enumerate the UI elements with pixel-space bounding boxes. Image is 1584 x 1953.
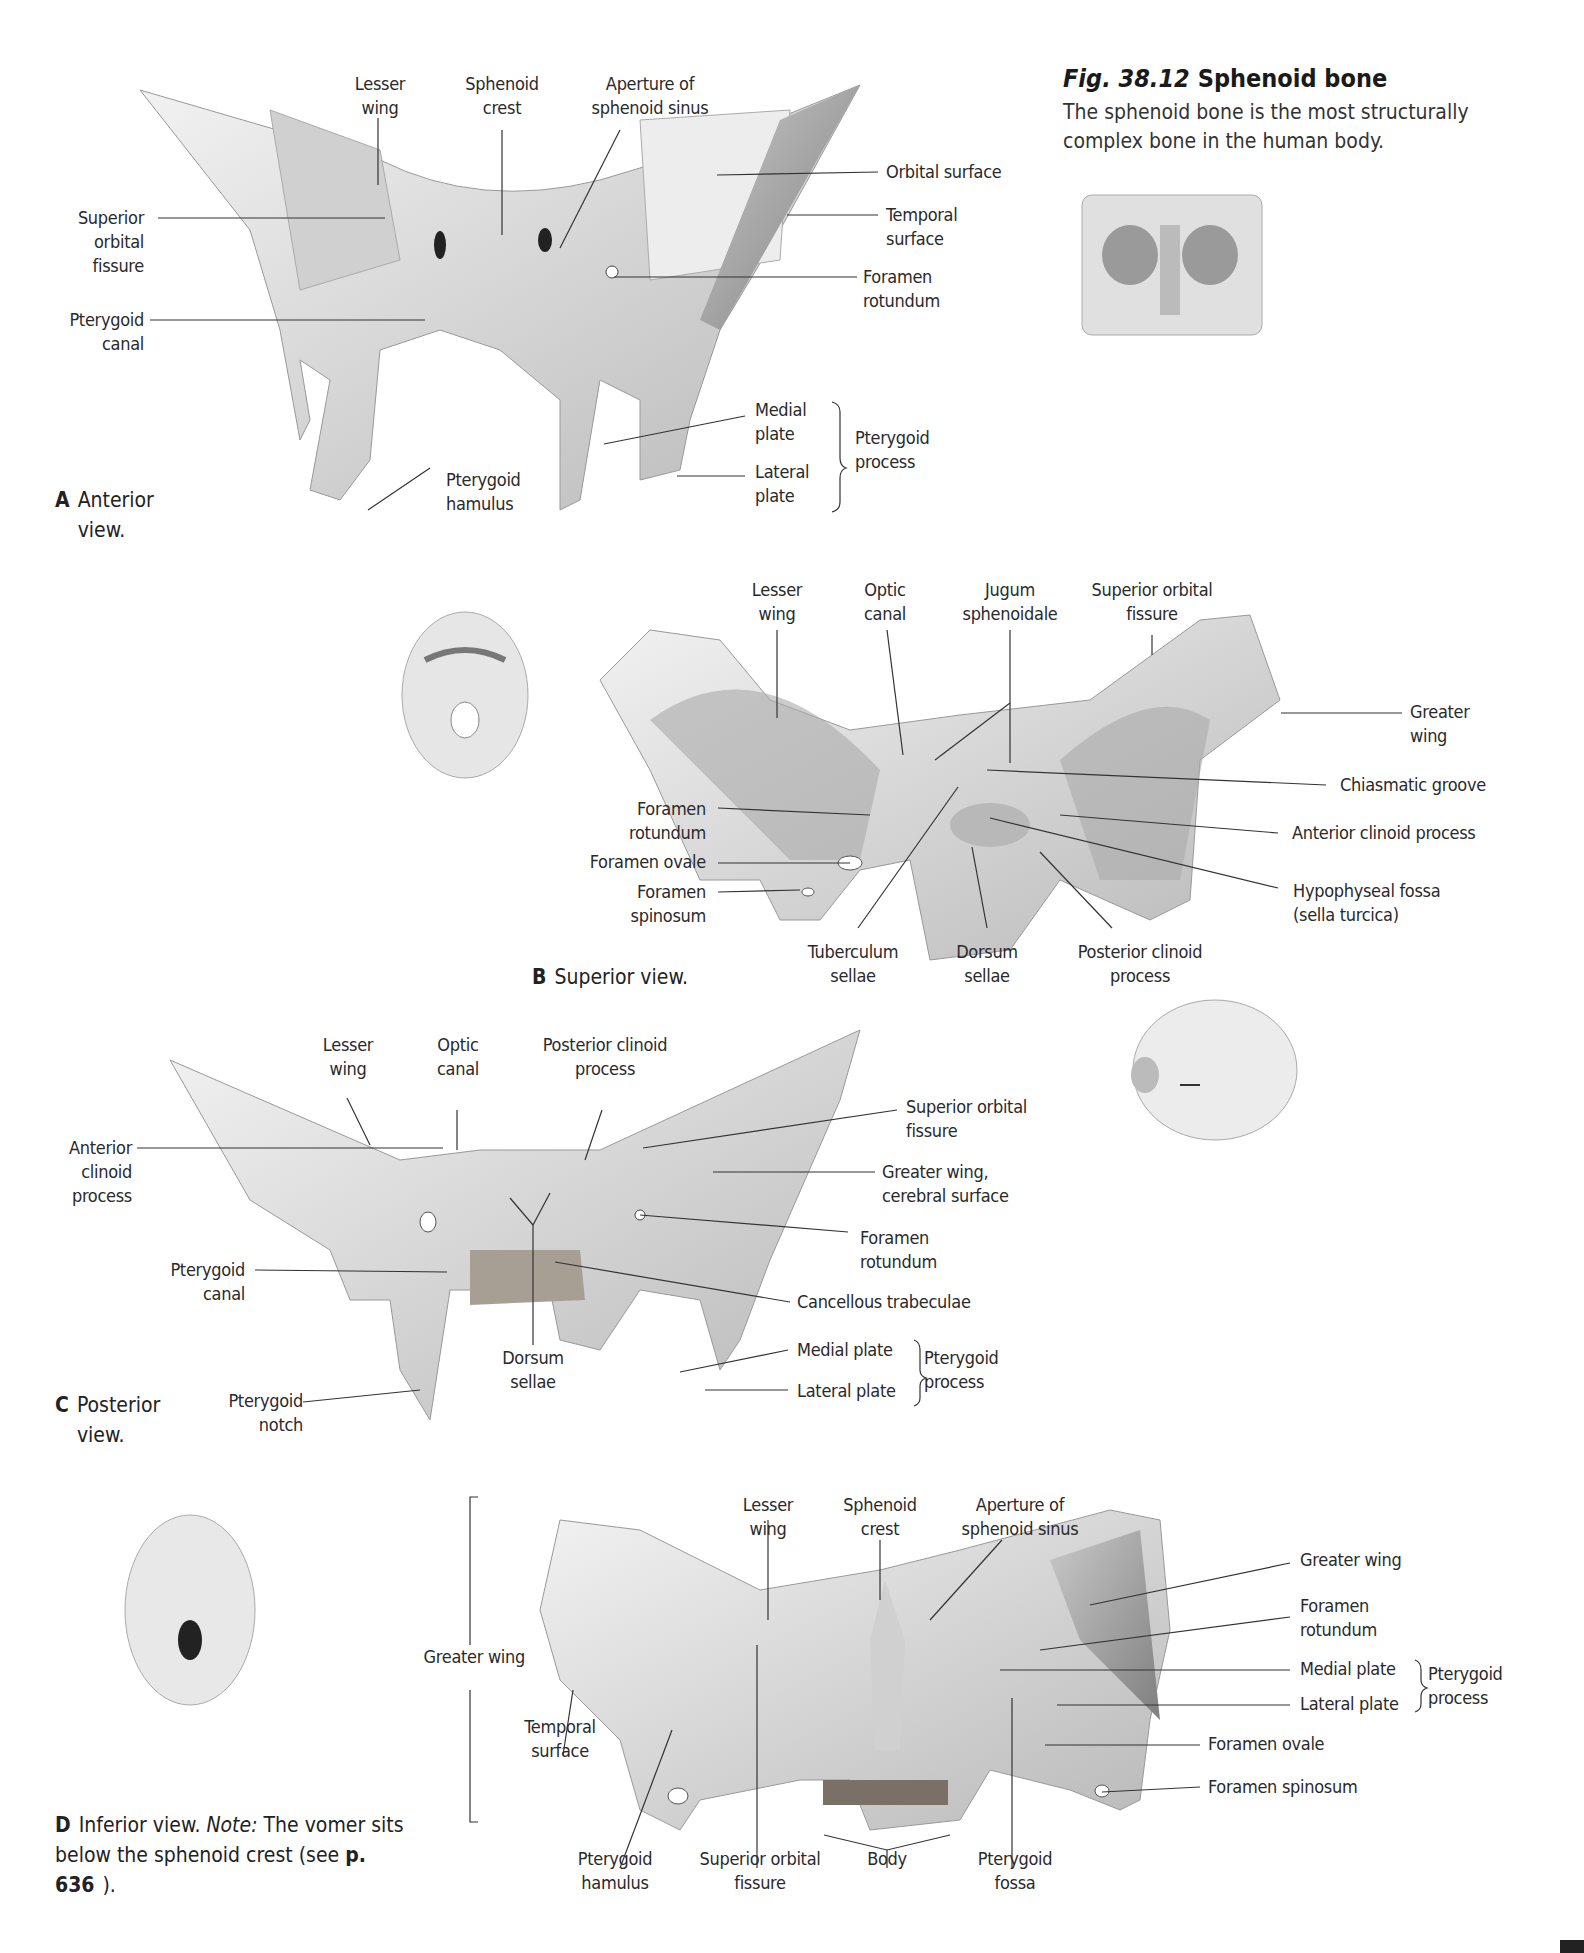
panel-d-letter: D (55, 1813, 71, 1837)
label-a-pterygoid-hamulus: Pterygoid hamulus (446, 468, 521, 516)
thumbnail-skull-lateral (1131, 1000, 1297, 1140)
label-a-orbital-surface: Orbital surface (886, 160, 1001, 184)
label-a-sphenoid-crest: Sphenoid crest (452, 72, 552, 120)
page-number-fragment (1560, 1940, 1584, 1953)
thumbnail-coronal-section (1082, 195, 1262, 335)
panel-a-caption: AAnterior view. (55, 485, 154, 545)
label-a-aperture-sphenoid-sinus: Aperture of sphenoid sinus (575, 72, 725, 120)
label-c-greater-wing-cerebral-surface: Greater wing, cerebral surface (882, 1160, 1009, 1208)
label-a-lateral-plate: Lateral plate (755, 460, 809, 508)
label-c-optic-canal: Optic canal (418, 1033, 498, 1081)
label-a-temporal-surface: Temporal surface (886, 203, 957, 251)
label-b-greater-wing: Greater wing (1410, 700, 1470, 748)
panel-d-caption-suffix: ). (102, 1873, 115, 1897)
label-c-posterior-clinoid-process: Posterior clinoid process (525, 1033, 685, 1081)
label-d-pterygoid-process: Pterygoid process (1428, 1662, 1503, 1710)
label-b-anterior-clinoid-process: Anterior clinoid process (1292, 821, 1476, 845)
panel-c-letter: C (55, 1393, 69, 1417)
label-c-lesser-wing: Lesser wing (308, 1033, 388, 1081)
panel-d-caption-prefix: Inferior view. (79, 1813, 207, 1837)
label-d-pterygoid-fossa: Pterygoid fossa (965, 1847, 1065, 1895)
label-d-greater-wing-left: Greater wing (380, 1645, 525, 1669)
label-d-foramen-spinosum: Foramen spinosum (1208, 1775, 1357, 1799)
label-d-foramen-rotundum: Foramen rotundum (1300, 1594, 1377, 1642)
label-b-jugum-sphenoidale: Jugum sphenoidale (945, 578, 1075, 626)
label-c-foramen-rotundum: Foramen rotundum (860, 1226, 937, 1274)
label-c-anterior-clinoid-process: Anterior clinoid process (40, 1136, 132, 1208)
label-b-posterior-clinoid-process: Posterior clinoid process (1060, 940, 1220, 988)
label-d-sphenoid-crest: Sphenoid crest (830, 1493, 930, 1541)
panel-a-bone-illustration (140, 85, 860, 510)
panel-c-caption-text: Posterior view. (77, 1390, 160, 1450)
label-a-lesser-wing: Lesser wing (340, 72, 420, 120)
label-b-hypophyseal-fossa: Hypophyseal fossa (sella turcica) (1293, 879, 1440, 927)
panel-b-letter: B (532, 965, 546, 989)
label-c-pterygoid-canal: Pterygoid canal (140, 1258, 245, 1306)
label-d-foramen-ovale: Foramen ovale (1208, 1732, 1324, 1756)
label-d-aperture-sphenoid-sinus: Aperture of sphenoid sinus (945, 1493, 1095, 1541)
panel-b-caption: BSuperior view. (532, 962, 688, 992)
label-b-lesser-wing: Lesser wing (737, 578, 817, 626)
label-d-pterygoid-hamulus: Pterygoid hamulus (565, 1847, 665, 1895)
label-d-medial-plate: Medial plate (1300, 1657, 1396, 1681)
label-a-medial-plate: Medial plate (755, 398, 806, 446)
label-b-optic-canal: Optic canal (845, 578, 925, 626)
label-c-cancellous-trabeculae: Cancellous trabeculae (797, 1290, 971, 1314)
label-d-greater-wing-right: Greater wing (1300, 1548, 1402, 1572)
panel-b-caption-text: Superior view. (554, 965, 688, 989)
label-a-pterygoid-process: Pterygoid process (855, 426, 930, 474)
thumbnail-skull-inferior (125, 1515, 255, 1705)
panel-a-letter: A (55, 488, 70, 512)
panel-d-caption-note: Note: (206, 1813, 257, 1837)
label-d-body: Body (857, 1847, 917, 1871)
label-c-dorsum-sellae: Dorsum sellae (483, 1346, 583, 1394)
label-d-lateral-plate: Lateral plate (1300, 1692, 1399, 1716)
label-b-foramen-spinosum: Foramen spinosum (580, 880, 706, 928)
label-d-lesser-wing: Lesser wing (728, 1493, 808, 1541)
label-d-temporal-surface: Temporal surface (510, 1715, 610, 1763)
label-b-chiasmatic-groove: Chiasmatic groove (1340, 773, 1486, 797)
label-b-foramen-rotundum: Foramen rotundum (580, 797, 706, 845)
thumbnail-skull-base-superior (402, 612, 528, 778)
label-d-superior-orbital-fissure: Superior orbital fissure (680, 1847, 840, 1895)
label-b-tuberculum-sellae: Tuberculum sellae (793, 940, 913, 988)
panel-a-caption-text: Anterior view. (78, 485, 154, 545)
panel-d-caption: DInferior view. Note: The vomer sits bel… (55, 1810, 425, 1900)
label-b-dorsum-sellae: Dorsum sellae (937, 940, 1037, 988)
label-a-pterygoid-canal: Pterygoid canal (40, 308, 144, 356)
label-b-foramen-ovale: Foramen ovale (560, 850, 706, 874)
label-c-pterygoid-process: Pterygoid process (924, 1346, 999, 1394)
panel-c-caption: CPosterior view. (55, 1390, 160, 1450)
label-a-foramen-rotundum: Foramen rotundum (863, 265, 940, 313)
label-a-superior-orbital-fissure: Superior orbital fissure (40, 206, 144, 278)
label-c-lateral-plate: Lateral plate (797, 1379, 896, 1403)
label-c-superior-orbital-fissure: Superior orbital fissure (906, 1095, 1027, 1143)
label-c-medial-plate: Medial plate (797, 1338, 893, 1362)
label-b-superior-orbital-fissure: Superior orbital fissure (1072, 578, 1232, 626)
label-c-pterygoid-notch: Pterygoid notch (195, 1389, 303, 1437)
